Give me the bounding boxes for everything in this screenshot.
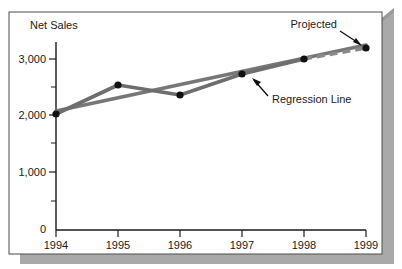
y-tick-label-2000: 2,000 <box>18 109 46 121</box>
y-tick-label-0: 0 <box>40 223 46 235</box>
x-tick-label-1999: 1999 <box>354 239 378 251</box>
chart-panel <box>9 12 382 254</box>
net-sales-line-chart: Net Sales 3,000 2,000 1,000 0 1994 1995 … <box>0 0 402 269</box>
x-tick-label-1997: 1997 <box>230 239 254 251</box>
x-tick-label-1996: 1996 <box>168 239 192 251</box>
data-point-1999 <box>362 44 369 51</box>
data-point-1996 <box>176 91 183 98</box>
y-tick-label-1000: 1,000 <box>18 166 46 178</box>
x-tick-label-1994: 1994 <box>44 239 68 251</box>
data-point-1997 <box>238 70 245 77</box>
y-axis-title: Net Sales <box>30 19 78 31</box>
data-point-1998 <box>300 55 307 62</box>
regression-line-annotation-label: Regression Line <box>272 93 352 105</box>
projected-annotation-label: Projected <box>291 18 337 30</box>
data-point-1994 <box>52 110 59 117</box>
y-tick-label-3000: 3,000 <box>18 53 46 65</box>
x-tick-label-1995: 1995 <box>106 239 130 251</box>
data-point-1995 <box>114 81 121 88</box>
x-tick-label-1998: 1998 <box>292 239 316 251</box>
figure-container: Net Sales 3,000 2,000 1,000 0 1994 1995 … <box>0 0 402 269</box>
